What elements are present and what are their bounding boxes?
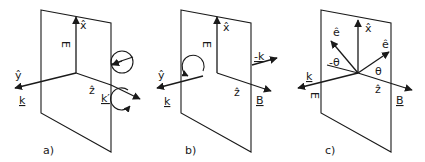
B-label: B xyxy=(396,94,404,107)
B-arrow xyxy=(358,73,412,90)
panel-a-caption: a) xyxy=(43,144,54,157)
z-hat-label: ẑ xyxy=(375,83,381,96)
e-right-arrow xyxy=(358,52,389,73)
E-label: E xyxy=(59,41,72,48)
z-hat-label: ẑ xyxy=(234,86,240,99)
e-right-label: ê xyxy=(382,38,389,51)
x-hat-label: x̂ xyxy=(365,22,372,35)
minus-k-label: -k xyxy=(254,50,265,63)
plane-c xyxy=(321,10,391,152)
e-left-label: ê xyxy=(333,26,340,39)
B-label: B xyxy=(256,94,264,107)
z-hat-label: ẑ xyxy=(89,84,95,97)
rotation-circle-icon xyxy=(182,55,204,76)
panel-b-caption: b) xyxy=(185,144,196,157)
y-hat-label: ŷ xyxy=(15,69,22,82)
rotation-circle-upper-icon xyxy=(111,51,133,73)
x-hat-label: x̂ xyxy=(80,19,87,32)
panel-b: x̂ E ŷ k ẑ B -k b) xyxy=(157,10,277,157)
k-label: k xyxy=(19,94,26,107)
k-prime-label: k′ xyxy=(101,92,110,105)
panel-a: x̂ E ŷ k ẑ k′ a) xyxy=(15,10,140,157)
E-label: E xyxy=(200,41,213,48)
y-hat-label: ŷ xyxy=(158,69,165,82)
k-prime-arrow xyxy=(111,85,140,99)
minus-theta-label: -θ xyxy=(329,56,340,69)
x-hat-label: x̂ xyxy=(223,21,230,34)
B-arrow xyxy=(217,73,271,91)
rotation-circle-lower-icon xyxy=(111,88,130,110)
incident-ray-line xyxy=(112,57,133,64)
theta-label: θ xyxy=(375,65,382,78)
k-arrow xyxy=(15,73,76,88)
k-label: k xyxy=(164,95,171,108)
polarization-diagram: x̂ E ŷ k ẑ k′ a) x̂ E ŷ k ẑ B -k b) x̂ ê… xyxy=(0,0,425,162)
panel-c-caption: c) xyxy=(325,144,335,157)
k-label: k xyxy=(306,70,313,83)
panel-c: x̂ ê ê -θ θ k E ẑ B c) xyxy=(298,10,412,157)
E-label: E xyxy=(308,92,321,99)
